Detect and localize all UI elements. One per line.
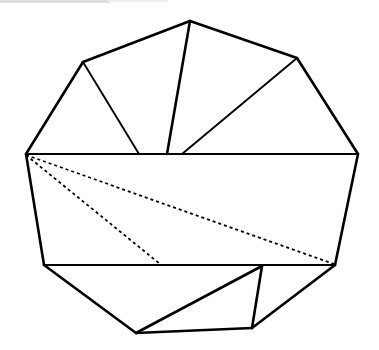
- scan-artifact-strip: [0, 0, 110, 3]
- polygon-fold-diagram: Folded polygon diagram A nonagon-like ou…: [0, 0, 379, 350]
- figure-canvas: Folded polygon diagram A nonagon-like ou…: [0, 0, 379, 350]
- scan-artifact-strip-secondary: [108, 0, 168, 2]
